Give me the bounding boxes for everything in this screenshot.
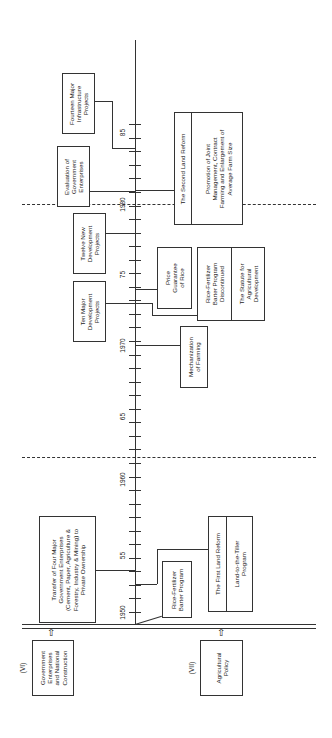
year-tick — [129, 422, 141, 423]
year-tick — [129, 273, 141, 274]
year-tick — [129, 246, 141, 247]
year-tick — [129, 436, 141, 437]
year-tick — [129, 287, 141, 288]
connector — [90, 191, 135, 192]
year-label-1960: 1960 — [119, 470, 126, 490]
connector — [106, 303, 135, 304]
year-tick — [129, 151, 141, 152]
connector — [135, 303, 152, 304]
year-label-75: 75 — [119, 265, 126, 285]
year-tick — [129, 395, 141, 396]
event-ten-major-projects: Ten Major Development Projects — [73, 281, 106, 342]
year-tick — [129, 300, 141, 301]
year-tick — [129, 504, 141, 505]
connector — [152, 303, 153, 315]
year-tick — [129, 124, 141, 125]
connector — [135, 345, 180, 346]
category-vi-numeral: (VI) — [19, 663, 26, 673]
year-label-85: 85 — [119, 123, 126, 143]
year-tick — [129, 382, 141, 383]
year-tick — [129, 544, 141, 545]
year-tick — [129, 571, 141, 572]
timeline-axis — [135, 40, 136, 625]
category-vi-box: Government Enterprises and National Cons… — [32, 640, 74, 696]
year-tick — [129, 598, 141, 599]
year-tick — [129, 219, 141, 220]
year-label-1980: 1980 — [119, 195, 126, 215]
connector — [152, 315, 197, 316]
year-tick — [129, 165, 141, 166]
event-transfer-four-enterprises: Transfer of Four Major Government Enterp… — [39, 516, 96, 623]
year-tick — [129, 138, 141, 139]
baseline-top — [22, 624, 316, 625]
arrow-up-icon: ⇧ — [217, 628, 225, 638]
connector — [135, 584, 157, 585]
year-tick — [129, 585, 141, 586]
connector — [112, 101, 113, 149]
year-tick — [129, 327, 141, 328]
connector — [106, 233, 135, 234]
year-tick — [129, 477, 141, 478]
connector — [157, 549, 208, 550]
year-tick — [129, 178, 141, 179]
event-evaluation-gov-enterprises: Evaluation of Government Enterprises — [57, 146, 90, 207]
year-tick — [129, 355, 141, 356]
year-tick — [129, 517, 141, 518]
year-tick — [129, 463, 141, 464]
year-tick — [129, 612, 141, 613]
event-fourteen-major-projects: Fourteen Major Infrastructure Projects — [62, 73, 95, 134]
connector — [135, 190, 174, 191]
connector — [135, 289, 157, 290]
category-vii-numeral: (VII) — [188, 662, 195, 674]
year-label-55: 55 — [119, 546, 126, 566]
event-twelve-new-projects: Twelve New Development Projects — [73, 213, 106, 274]
year-label-65: 65 — [119, 407, 126, 427]
baseline-bottom — [22, 628, 316, 629]
year-tick — [129, 314, 141, 315]
event-price-guarantee-rice: Price Guarantee of Rice — [157, 247, 192, 309]
year-tick — [129, 206, 141, 207]
year-tick — [129, 531, 141, 532]
category-vii-box: Agricultural Policy — [200, 640, 243, 696]
connector — [112, 148, 135, 149]
year-tick — [129, 192, 141, 193]
year-tick — [129, 490, 141, 491]
arrow-up-icon: ⇧ — [47, 628, 55, 638]
year-tick — [129, 260, 141, 261]
connector — [96, 570, 135, 571]
year-tick — [129, 341, 141, 342]
year-label-1950: 1950 — [119, 603, 126, 623]
year-tick — [129, 558, 141, 559]
event-barter-discontinued-statute: Rice-Fertilizer Barter Program Discontin… — [197, 247, 265, 321]
connector — [157, 549, 158, 584]
year-label-1970: 1970 — [119, 336, 126, 356]
event-first-land-reform: The First Land Reform Land-to-the-Tiller… — [208, 516, 253, 612]
event-mechanization-farming: Mechanization of Farming — [180, 326, 208, 388]
connector — [95, 101, 112, 102]
year-tick — [129, 449, 141, 450]
separator-1961 — [22, 457, 316, 458]
event-second-land-reform: The Second Land Reform Promotion of Join… — [174, 112, 243, 225]
year-tick — [129, 368, 141, 369]
year-tick — [129, 409, 141, 410]
event-rice-fertilizer-barter: Rice-Fertilizer Barter Program — [162, 561, 192, 618]
